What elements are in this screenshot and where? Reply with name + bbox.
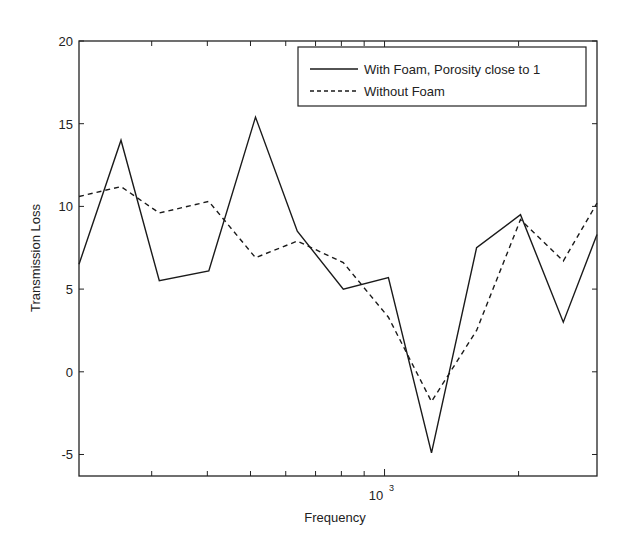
x-axis-label: Frequency <box>304 510 366 525</box>
chart: -505101520 Frequency Transmission Loss 1… <box>0 0 630 557</box>
y-tick-label: 0 <box>66 365 73 380</box>
y-tick-label: 15 <box>59 117 73 132</box>
series-line-without-foam <box>79 187 597 402</box>
y-tick-label: -5 <box>61 447 73 462</box>
series-layer <box>79 117 597 453</box>
y-tick-label: 20 <box>59 34 73 49</box>
series-line-with-foam <box>79 117 597 453</box>
legend: With Foam, Porosity close to 1 Without F… <box>298 47 586 106</box>
y-tick-label: 5 <box>66 282 73 297</box>
x-major-tick-exponent: 3 <box>389 483 394 493</box>
legend-label-without-foam: Without Foam <box>364 84 445 99</box>
x-major-tick-label: 10 <box>369 488 383 503</box>
legend-label-with-foam: With Foam, Porosity close to 1 <box>364 62 540 77</box>
y-axis-label: Transmission Loss <box>28 204 43 312</box>
y-tick-label: 10 <box>59 199 73 214</box>
